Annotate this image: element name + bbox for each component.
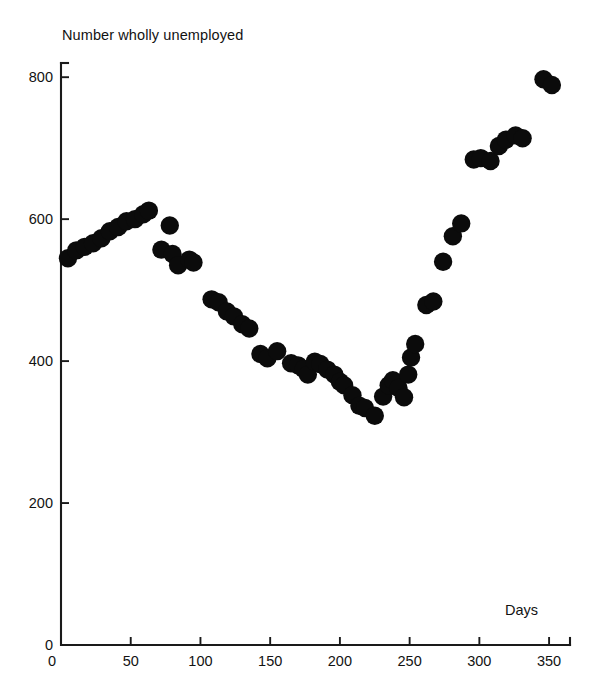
y-tick-label: 600 (5, 211, 53, 227)
data-point (366, 407, 384, 425)
x-axis-ticks (131, 637, 549, 645)
data-point (161, 216, 179, 234)
x-tick-label: 200 (328, 653, 352, 669)
y-tick-label: 0 (5, 637, 53, 653)
y-tick-label: 200 (5, 495, 53, 511)
y-tick-label: 800 (5, 69, 53, 85)
data-point (543, 76, 561, 94)
y-axis-ticks (61, 77, 69, 503)
x-tick-label: 250 (398, 653, 422, 669)
x-tick-label: 150 (258, 653, 282, 669)
x-tick-label: 50 (123, 653, 139, 669)
chart-figure: Number wholly unemployed Days 0200400600… (0, 0, 600, 691)
data-point (395, 388, 413, 406)
data-point (434, 253, 452, 271)
data-point (140, 201, 158, 219)
data-point (424, 292, 442, 310)
data-point (452, 214, 470, 232)
x-tick-label: 300 (467, 653, 491, 669)
x-tick-label: 350 (537, 653, 561, 669)
x-tick-label: 0 (48, 653, 56, 669)
x-tick-label: 100 (188, 653, 212, 669)
data-point (406, 335, 424, 353)
data-point (399, 365, 417, 383)
y-tick-label: 400 (5, 353, 53, 369)
data-point (184, 253, 202, 271)
data-point (513, 129, 531, 147)
data-point (268, 342, 286, 360)
scatter-plot-canvas (0, 0, 600, 691)
data-points-layer (59, 70, 561, 425)
data-point (240, 319, 258, 337)
